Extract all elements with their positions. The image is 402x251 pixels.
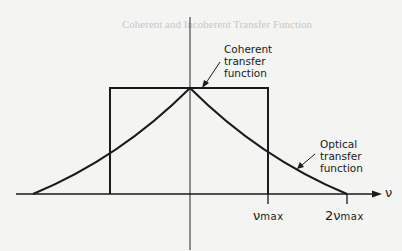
optical-line-1: Optical — [320, 138, 363, 150]
optical-pointer-line — [302, 154, 315, 165]
tick-2vmax-symbol: 2ν — [325, 208, 341, 223]
optical-line-2: transfer — [320, 150, 363, 162]
transfer-function-figure: Coherent and Incoherent Transfer Functio… — [0, 0, 402, 251]
tick-2vmax-subscript: max — [341, 211, 364, 222]
tick-label-vmax: νmax — [253, 208, 284, 223]
x-axis-arrow-icon — [372, 191, 382, 198]
optical-annotation: Optical transfer function — [320, 138, 363, 174]
tick-label-2vmax: 2νmax — [325, 208, 364, 223]
coherent-pointer-line — [206, 62, 220, 83]
optical-line-3: function — [320, 162, 363, 174]
coherent-transfer-curve — [110, 88, 268, 194]
coherent-line-2: transfer — [224, 55, 272, 67]
tick-vmax-subscript: max — [260, 211, 283, 222]
optical-pointer-arrowhead-icon — [297, 162, 304, 169]
coherent-annotation: Coherent transfer function — [224, 43, 272, 79]
coherent-line-3: function — [224, 67, 272, 79]
coherent-pointer-arrowhead-icon — [202, 80, 209, 88]
coherent-line-1: Coherent — [224, 43, 272, 55]
x-axis-label: ν — [385, 185, 392, 200]
